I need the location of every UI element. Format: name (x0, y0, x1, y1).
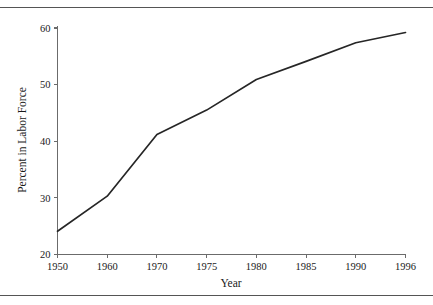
y-tick-label: 40 (40, 136, 51, 147)
x-tick-label: 1970 (146, 261, 167, 272)
x-tick-label: 1990 (345, 261, 366, 272)
y-tick-label: 20 (40, 249, 51, 260)
x-tick-label: 1960 (97, 261, 118, 272)
x-tick-label: 1975 (196, 261, 217, 272)
y-tick-label: 30 (40, 193, 51, 204)
y-axis-title: Percent in Labor Force (16, 87, 28, 193)
x-tick-label: 1980 (246, 261, 267, 272)
x-tick-label: 1950 (47, 261, 68, 272)
figure-container: 2030405060 19501960197019751980198519901… (0, 0, 433, 305)
data-series-line (58, 33, 406, 232)
line-chart: 2030405060 19501960197019751980198519901… (0, 0, 433, 305)
x-axis-title: Year (220, 277, 241, 289)
y-tick-label: 60 (40, 23, 51, 34)
y-axis-tick-labels: 2030405060 (40, 23, 51, 261)
axes (58, 26, 406, 255)
x-tick-label: 1996 (395, 261, 416, 272)
y-tick-label: 50 (40, 79, 51, 90)
x-tick-label: 1985 (296, 261, 317, 272)
x-axis-tick-labels: 19501960197019751980198519901996 (47, 261, 416, 272)
